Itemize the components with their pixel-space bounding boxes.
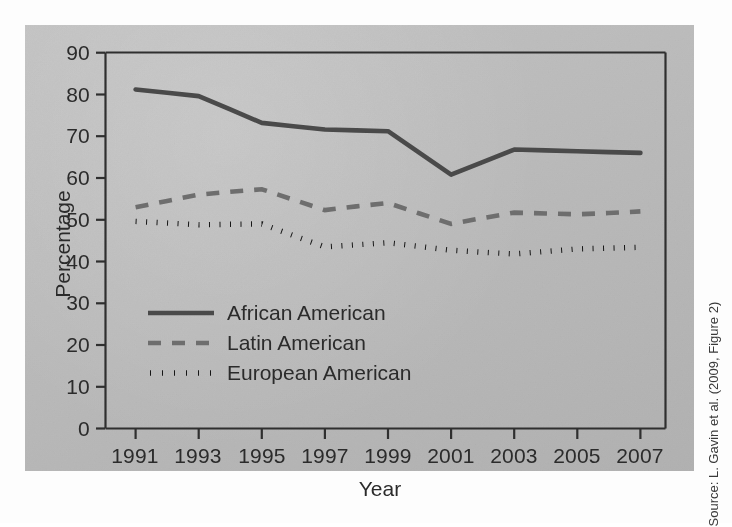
- y-axis-ticks: [96, 53, 105, 429]
- legend-label-latin-american: Latin American: [227, 331, 366, 355]
- x-tick-label-2001: 2001: [416, 444, 486, 468]
- series-african-american: [136, 89, 641, 174]
- y-tick-label-90: 90: [34, 41, 90, 65]
- x-axis-title: Year: [300, 477, 460, 501]
- x-tick-label-2003: 2003: [479, 444, 549, 468]
- y-tick-label-10: 10: [34, 375, 90, 399]
- y-tick-label-20: 20: [34, 333, 90, 357]
- x-tick-label-1999: 1999: [353, 444, 423, 468]
- y-tick-label-70: 70: [34, 124, 90, 148]
- x-tick-label-2005: 2005: [542, 444, 612, 468]
- legend-swatch-dashed-line: [148, 335, 214, 351]
- x-tick-label-2007: 2007: [605, 444, 675, 468]
- y-tick-label-0: 0: [34, 417, 90, 441]
- x-tick-label-1993: 1993: [163, 444, 233, 468]
- source-credit: Source: L. Gavin et al. (2009, Figure 2): [706, 227, 721, 527]
- y-axis-title: Percentage: [51, 159, 75, 329]
- legend-item-european-american: European American: [148, 358, 411, 388]
- series-latin-american: [136, 189, 641, 224]
- legend-item-african-american: African American: [148, 298, 411, 328]
- x-axis-ticks: [136, 429, 641, 439]
- x-tick-label-1997: 1997: [290, 444, 360, 468]
- x-tick-label-1991: 1991: [100, 444, 170, 468]
- chart-legend: African American Latin American European…: [148, 298, 411, 388]
- series-european-american: [136, 221, 641, 254]
- legend-label-european-american: European American: [227, 361, 411, 385]
- y-tick-label-80: 80: [34, 83, 90, 107]
- legend-label-african-american: African American: [227, 301, 386, 325]
- legend-swatch-dotted-line: [148, 365, 214, 381]
- x-tick-label-1995: 1995: [227, 444, 297, 468]
- legend-item-latin-american: Latin American: [148, 328, 411, 358]
- legend-swatch-solid-line: [148, 305, 214, 321]
